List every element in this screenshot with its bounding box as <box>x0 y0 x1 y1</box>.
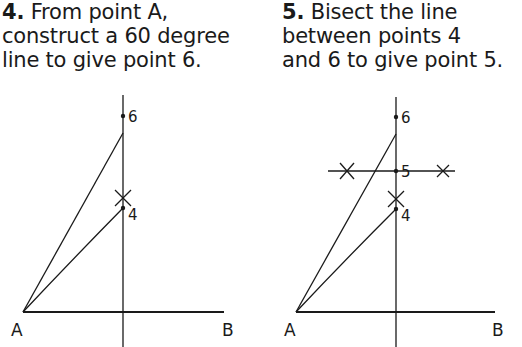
point-6 <box>394 115 398 119</box>
label-point-6: 6 <box>128 108 138 126</box>
label-point-a: A <box>284 320 296 340</box>
label-point-4: 4 <box>401 207 411 225</box>
point-4 <box>394 207 398 211</box>
label-point-a: A <box>11 320 23 340</box>
sixty-degree-line <box>296 134 396 312</box>
point-5 <box>394 169 398 173</box>
diagram-step-4 <box>23 95 224 347</box>
construction-diagrams: 6 4 A B 6 5 4 A B <box>0 0 522 347</box>
point-4 <box>121 206 125 210</box>
point-6 <box>121 114 125 118</box>
label-point-4: 4 <box>128 206 138 224</box>
label-point-5: 5 <box>401 163 411 181</box>
line-to-point-4 <box>296 209 396 312</box>
label-point-b: B <box>492 320 504 340</box>
diagram-step-5 <box>296 97 495 347</box>
label-point-6: 6 <box>401 109 411 127</box>
label-point-b: B <box>222 320 234 340</box>
